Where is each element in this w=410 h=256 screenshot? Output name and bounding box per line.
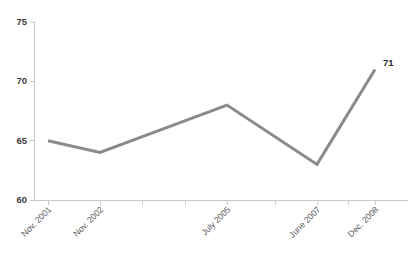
x-tick-label-dec-2008: Dec. 2008 (346, 204, 381, 239)
y-tick-label-65: 65 (16, 135, 27, 146)
y-tick-label-75: 75 (16, 16, 27, 27)
x-tick-label-nov-2002: Nov. 2002 (71, 204, 105, 238)
line-chart-svg: 75 70 65 60 Nov. 2001 Nov. 2002 July 200… (0, 0, 410, 256)
data-point-label-dec-2008: 71 (383, 57, 394, 68)
x-tick-label-june-2007: June 2007 (287, 204, 323, 240)
y-tick-label-60: 60 (16, 194, 27, 205)
y-tick-label-70: 70 (16, 75, 27, 86)
line-chart-container: 75 70 65 60 Nov. 2001 Nov. 2002 July 200… (0, 0, 410, 256)
x-tick-label-july-2005: July 2005 (199, 204, 232, 237)
data-series-line (48, 69, 375, 164)
x-tick-label-nov-2001: Nov. 2001 (19, 204, 53, 238)
